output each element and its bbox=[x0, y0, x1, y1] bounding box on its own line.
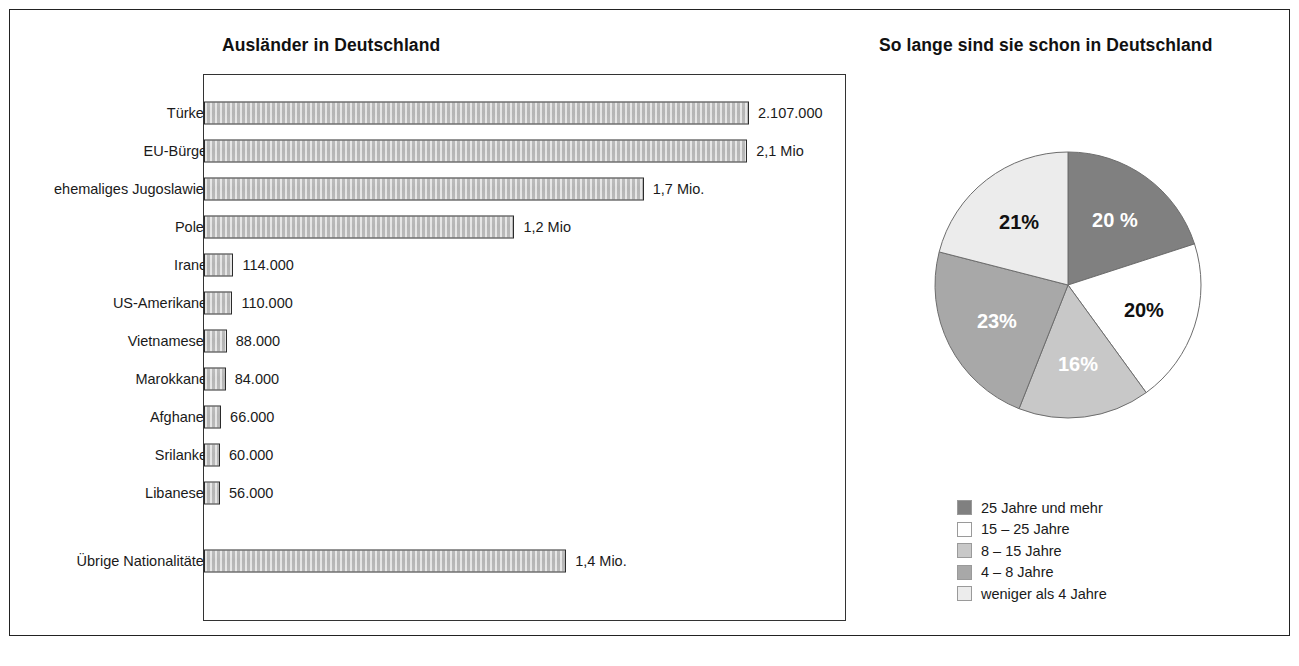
bar-value-label: 60.000 bbox=[229, 447, 273, 463]
bar-row: ehemaliges Jugoslawien1,7 Mio. bbox=[10, 170, 870, 208]
bar-category-label: Marokkaner bbox=[135, 371, 212, 387]
bar-shape bbox=[204, 140, 747, 163]
bar-value-label: 84.000 bbox=[235, 371, 279, 387]
pie-slice-percent-label: 23% bbox=[977, 310, 1017, 332]
pie-chart-svg: 20 %20%16%23%21% bbox=[870, 80, 1270, 492]
bar-row: Polen1,2 Mio bbox=[10, 208, 870, 246]
bar-category-label: US-Amerikaner bbox=[113, 295, 212, 311]
bar-row: Marokkaner84.000 bbox=[10, 360, 870, 398]
bar-shape bbox=[204, 178, 644, 201]
bar-value-label: 2.107.000 bbox=[758, 105, 823, 121]
bar-row: Iraner114.000 bbox=[10, 246, 870, 284]
pie-chart-legend: 25 Jahre und mehr15 – 25 Jahre8 – 15 Jah… bbox=[957, 497, 1257, 605]
bar-value-label: 1,4 Mio. bbox=[575, 553, 627, 569]
bar-shape bbox=[204, 254, 233, 277]
bar-row: Libanesen56.000 bbox=[10, 474, 870, 512]
pie-slice-percent-label: 16% bbox=[1058, 353, 1098, 375]
bar-category-label: ehemaliges Jugoslawien bbox=[54, 181, 212, 197]
bar-row: Vietnamesen88.000 bbox=[10, 322, 870, 360]
bar-value-label: 66.000 bbox=[230, 409, 274, 425]
legend-item: 4 – 8 Jahre bbox=[957, 562, 1257, 584]
bar-value-label: 2,1 Mio bbox=[756, 143, 804, 159]
legend-swatch-icon bbox=[957, 500, 972, 515]
bar-row: Türken2.107.000 bbox=[10, 94, 870, 132]
bar-category-label: Afghanen bbox=[150, 409, 212, 425]
bar-row: EU-Bürger2,1 Mio bbox=[10, 132, 870, 170]
bar-value-label: 114.000 bbox=[242, 257, 293, 273]
bar-shape bbox=[204, 444, 220, 467]
bar-shape bbox=[204, 550, 566, 573]
pie-slice-percent-label: 20% bbox=[1124, 299, 1164, 321]
bar-category-label: EU-Bürger bbox=[144, 143, 213, 159]
legend-swatch-icon bbox=[957, 565, 972, 580]
bar-category-label: Libanesen bbox=[145, 485, 212, 501]
pie-chart-title: So lange sind sie schon in Deutschland bbox=[879, 35, 1212, 56]
bar-shape bbox=[204, 330, 227, 353]
legend-swatch-icon bbox=[957, 522, 972, 537]
bar-shape bbox=[204, 406, 221, 429]
bar-row: Übrige Nationalitäten1,4 Mio. bbox=[10, 542, 870, 580]
bar-category-label: Vietnamesen bbox=[128, 333, 212, 349]
pie-slice-percent-label: 21% bbox=[999, 211, 1039, 233]
legend-item: weniger als 4 Jahre bbox=[957, 583, 1257, 605]
bar-value-label: 88.000 bbox=[236, 333, 280, 349]
legend-label: 15 – 25 Jahre bbox=[981, 521, 1070, 537]
legend-swatch-icon bbox=[957, 586, 972, 601]
bar-shape bbox=[204, 482, 220, 505]
bar-category-label: Übrige Nationalitäten bbox=[77, 553, 212, 569]
legend-item: 25 Jahre und mehr bbox=[957, 497, 1257, 519]
bar-shape bbox=[204, 102, 749, 125]
bar-shape bbox=[204, 292, 232, 315]
bar-shape bbox=[204, 216, 514, 239]
chart-outer-frame: Ausländer in Deutschland Türken2.107.000… bbox=[9, 9, 1290, 636]
legend-label: 8 – 15 Jahre bbox=[981, 543, 1062, 559]
bar-chart-rows: Türken2.107.000EU-Bürger2,1 Mioehemalige… bbox=[10, 74, 870, 621]
bar-row: Afghanen66.000 bbox=[10, 398, 870, 436]
bar-row: Srilanker60.000 bbox=[10, 436, 870, 474]
legend-label: weniger als 4 Jahre bbox=[981, 586, 1107, 602]
legend-label: 25 Jahre und mehr bbox=[981, 500, 1103, 516]
pie-chart: 20 %20%16%23%21% bbox=[870, 80, 1270, 492]
bar-chart-title: Ausländer in Deutschland bbox=[222, 35, 440, 56]
bar-row: US-Amerikaner110.000 bbox=[10, 284, 870, 322]
bar-value-label: 1,7 Mio. bbox=[653, 181, 705, 197]
bar-value-label: 56.000 bbox=[229, 485, 273, 501]
bar-value-label: 110.000 bbox=[241, 295, 292, 311]
legend-item: 8 – 15 Jahre bbox=[957, 540, 1257, 562]
pie-slice-percent-label: 20 % bbox=[1092, 209, 1138, 231]
bar-shape bbox=[204, 368, 226, 391]
legend-item: 15 – 25 Jahre bbox=[957, 519, 1257, 541]
bar-value-label: 1,2 Mio bbox=[523, 219, 571, 235]
legend-label: 4 – 8 Jahre bbox=[981, 564, 1054, 580]
legend-swatch-icon bbox=[957, 543, 972, 558]
